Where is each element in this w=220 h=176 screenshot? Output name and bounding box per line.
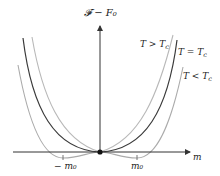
curve-above-tc xyxy=(32,35,173,152)
label-below-tc: T < Tc xyxy=(183,71,212,83)
label-above-tc: T > Tc xyxy=(140,39,169,51)
label-critical-tc: T = Tc xyxy=(178,47,207,59)
pos-m0-label: m₀ xyxy=(131,161,144,171)
y-axis-label: 𝓕 − F₀ xyxy=(84,7,117,18)
neg-m0-label: − m₀ xyxy=(54,161,77,171)
x-axis-label: m xyxy=(193,152,202,162)
origin-dot xyxy=(97,149,102,154)
free-energy-diagram: 𝓕 − F₀ m − m₀ m₀ T > Tc T = Tc T < Tc xyxy=(0,0,220,176)
